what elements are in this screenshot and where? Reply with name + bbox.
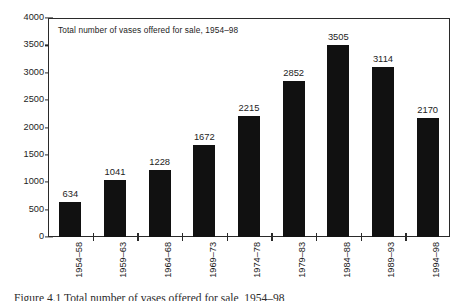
- x-tick-label: 1989–93: [387, 242, 396, 278]
- bar-chart-figure: 05001000150020002500300035004000 Total n…: [0, 0, 464, 301]
- x-tick-mark: [361, 233, 362, 241]
- y-axis: 05001000150020002500300035004000: [0, 18, 44, 237]
- x-axis: 1954–581959–631964–681969–731974–781979–…: [48, 242, 450, 294]
- bar-value-label: 2215: [239, 103, 260, 113]
- x-tick-label: 1984–88: [343, 242, 352, 278]
- bar-value-label: 2852: [283, 68, 304, 78]
- y-tick-label: 0: [0, 232, 44, 241]
- bar-value-label: 2170: [417, 105, 438, 115]
- x-tick-label: 1974–78: [253, 242, 262, 278]
- x-tick-mark: [316, 233, 317, 241]
- bar: [417, 118, 439, 237]
- y-tick-label: 2500: [0, 96, 44, 105]
- x-tick-label: 1994–98: [432, 242, 441, 278]
- x-tick-label: 1954–58: [75, 242, 84, 278]
- bar-group: 1041: [93, 18, 138, 237]
- x-tick-label: 1969–73: [209, 242, 218, 278]
- bar-group: 2170: [405, 18, 450, 237]
- bar-value-label: 1228: [149, 157, 170, 167]
- bar-group: 634: [48, 18, 93, 237]
- bar-value-label: 3505: [328, 32, 349, 42]
- bar: [283, 81, 305, 237]
- bar-group: 2852: [271, 18, 316, 237]
- bar: [238, 116, 260, 237]
- bar: [327, 45, 349, 237]
- x-tick-mark: [405, 233, 406, 241]
- x-tick-mark: [227, 233, 228, 241]
- bar-value-label: 3114: [373, 54, 393, 64]
- x-tick-mark: [271, 233, 272, 241]
- bar-group: 1672: [182, 18, 227, 237]
- y-tick-label: 1000: [0, 178, 44, 187]
- bar-group: 3505: [316, 18, 361, 237]
- y-tick-label: 3000: [0, 68, 44, 77]
- bar: [59, 202, 81, 237]
- x-tick-mark: [93, 233, 94, 241]
- x-tick-label: 1964–68: [164, 242, 173, 278]
- x-tick-mark: [182, 233, 183, 241]
- y-tick-label: 2000: [0, 123, 44, 132]
- bar-group: 2215: [227, 18, 272, 237]
- y-tick-label: 1500: [0, 150, 44, 159]
- bar: [193, 145, 215, 237]
- bar-value-label: 634: [63, 189, 79, 199]
- bar: [104, 180, 126, 237]
- x-tick-mark: [137, 233, 138, 241]
- bar-value-label: 1672: [194, 132, 215, 142]
- y-tick-label: 4000: [0, 13, 44, 22]
- bar: [372, 67, 394, 237]
- bar-group: 3114: [361, 18, 406, 237]
- y-tick-label: 3500: [0, 41, 44, 50]
- bar-value-label: 1041: [105, 167, 126, 177]
- x-tick-label: 1959–63: [119, 242, 128, 278]
- figure-caption: Figure 4.1 Total number of vases offered…: [14, 292, 454, 301]
- bar: [149, 170, 171, 237]
- bars-container: 63410411228167222152852350531142170: [48, 18, 450, 237]
- bar-group: 1228: [137, 18, 182, 237]
- x-tick-label: 1979–83: [298, 242, 307, 278]
- y-tick-label: 500: [0, 205, 44, 214]
